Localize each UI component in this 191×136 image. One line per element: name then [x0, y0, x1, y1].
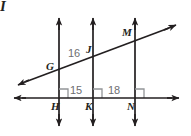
geometry-diagram: I	[0, 0, 191, 136]
measure-label-kn: 18	[108, 85, 120, 96]
right-angle-mark-k	[93, 89, 102, 98]
diagonal-transversal	[18, 25, 176, 85]
point-label-n: N	[127, 101, 135, 112]
right-angle-mark-n	[135, 89, 144, 98]
point-label-k: K	[85, 101, 92, 112]
point-label-h: H	[51, 101, 60, 112]
point-label-m: M	[122, 27, 132, 38]
measure-label-hk: 15	[70, 85, 82, 96]
right-angle-mark-h	[59, 89, 68, 98]
point-label-j: J	[86, 44, 92, 55]
point-label-g: G	[46, 61, 54, 72]
figure-svg	[0, 0, 191, 136]
measure-label-gj: 16	[68, 48, 80, 59]
